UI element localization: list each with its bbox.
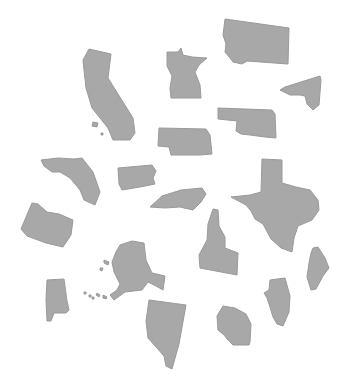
state-silhouettes-canvas: [0, 0, 343, 379]
alaska-island-6-shape: [89, 295, 91, 297]
california-island-1-shape: [92, 122, 98, 127]
california-island-2-shape: [101, 133, 103, 135]
pennsylvania-shape: [118, 165, 156, 190]
alaska-island-7-shape: [92, 297, 94, 299]
minnesota-shape: [167, 48, 207, 98]
idaho-shape: [199, 209, 238, 275]
alaska-shape: [110, 241, 165, 300]
montana-shape: [223, 19, 289, 64]
oklahoma-shape: [218, 108, 276, 138]
california-shape: [83, 49, 135, 140]
wisconsin-shape: [217, 306, 251, 345]
new-york-shape: [280, 76, 321, 110]
alaska-island-3-shape: [103, 295, 107, 299]
oregon-shape: [21, 203, 73, 247]
maine-shape: [307, 247, 329, 290]
alaska-island-2-shape: [100, 268, 103, 271]
north-carolina-shape: [150, 188, 206, 210]
alaska-island-5-shape: [84, 292, 86, 294]
texas-shape: [231, 159, 319, 252]
nebraska-shape: [158, 128, 212, 155]
illinois-shape: [264, 278, 290, 326]
alabama-shape: [46, 279, 69, 321]
alaska-island-4-shape: [96, 293, 100, 297]
shapes-layer: [21, 19, 329, 369]
nevada-shape: [146, 300, 186, 369]
alaska-island-1-shape: [104, 260, 109, 265]
florida-shape: [41, 158, 100, 205]
